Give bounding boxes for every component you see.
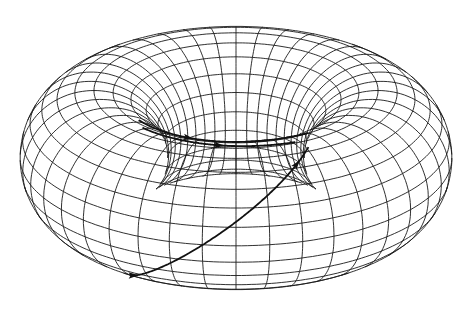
background [0, 0, 459, 329]
torus-diagram [0, 0, 459, 329]
